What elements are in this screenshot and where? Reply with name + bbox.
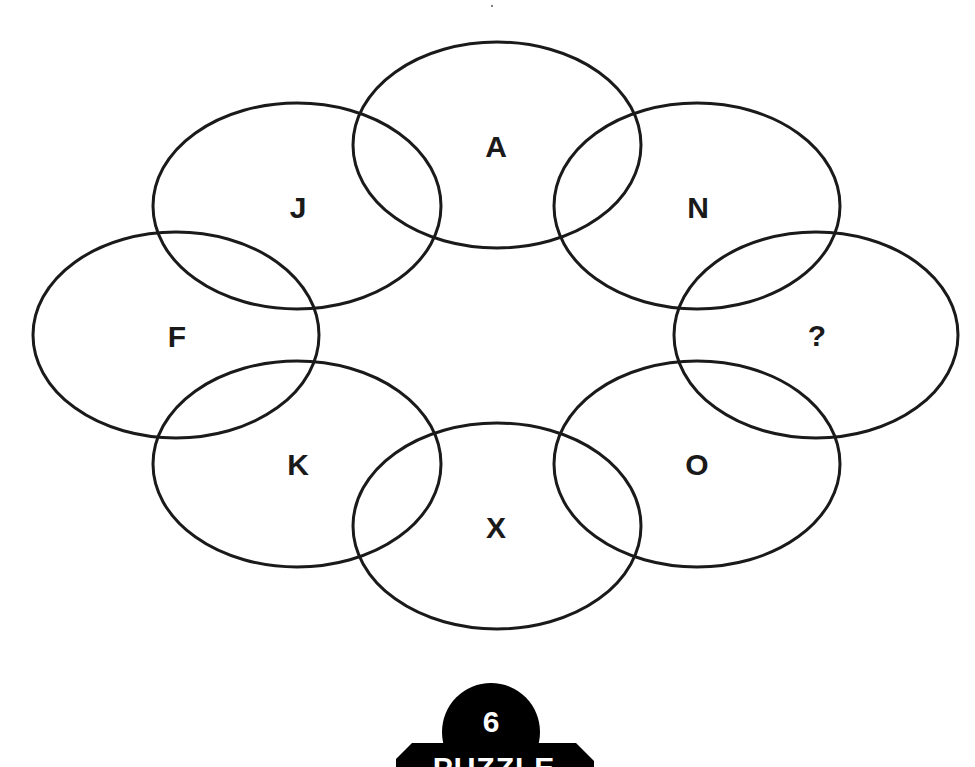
puzzle-canvas: A N ? O X K F J 6 PUZZLE	[0, 0, 975, 767]
letter-k: K	[287, 450, 309, 480]
letter-o: O	[685, 450, 708, 480]
letter-a: A	[485, 132, 507, 162]
letter-j: J	[290, 193, 307, 223]
letter-n: N	[687, 193, 709, 223]
question-mark: ?	[808, 321, 826, 351]
ellipse-ring	[0, 0, 975, 767]
letter-x: X	[486, 513, 506, 543]
letter-f: F	[168, 322, 186, 352]
badge-number: 6	[483, 707, 500, 737]
badge-label: PUZZLE	[433, 753, 556, 767]
